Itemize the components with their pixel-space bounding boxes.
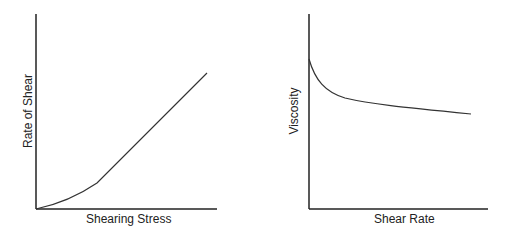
charts-canvas (0, 0, 506, 238)
right-x-axis-label: Shear Rate (374, 212, 435, 226)
right-chart (309, 14, 488, 209)
left-chart (36, 14, 217, 209)
left-y-axis-label: Rate of Shear (21, 71, 35, 151)
right-curve (309, 59, 471, 114)
left-curve (36, 73, 207, 209)
right-y-axis-label: Viscosity (287, 81, 301, 141)
left-x-axis-label: Shearing Stress (86, 212, 171, 226)
